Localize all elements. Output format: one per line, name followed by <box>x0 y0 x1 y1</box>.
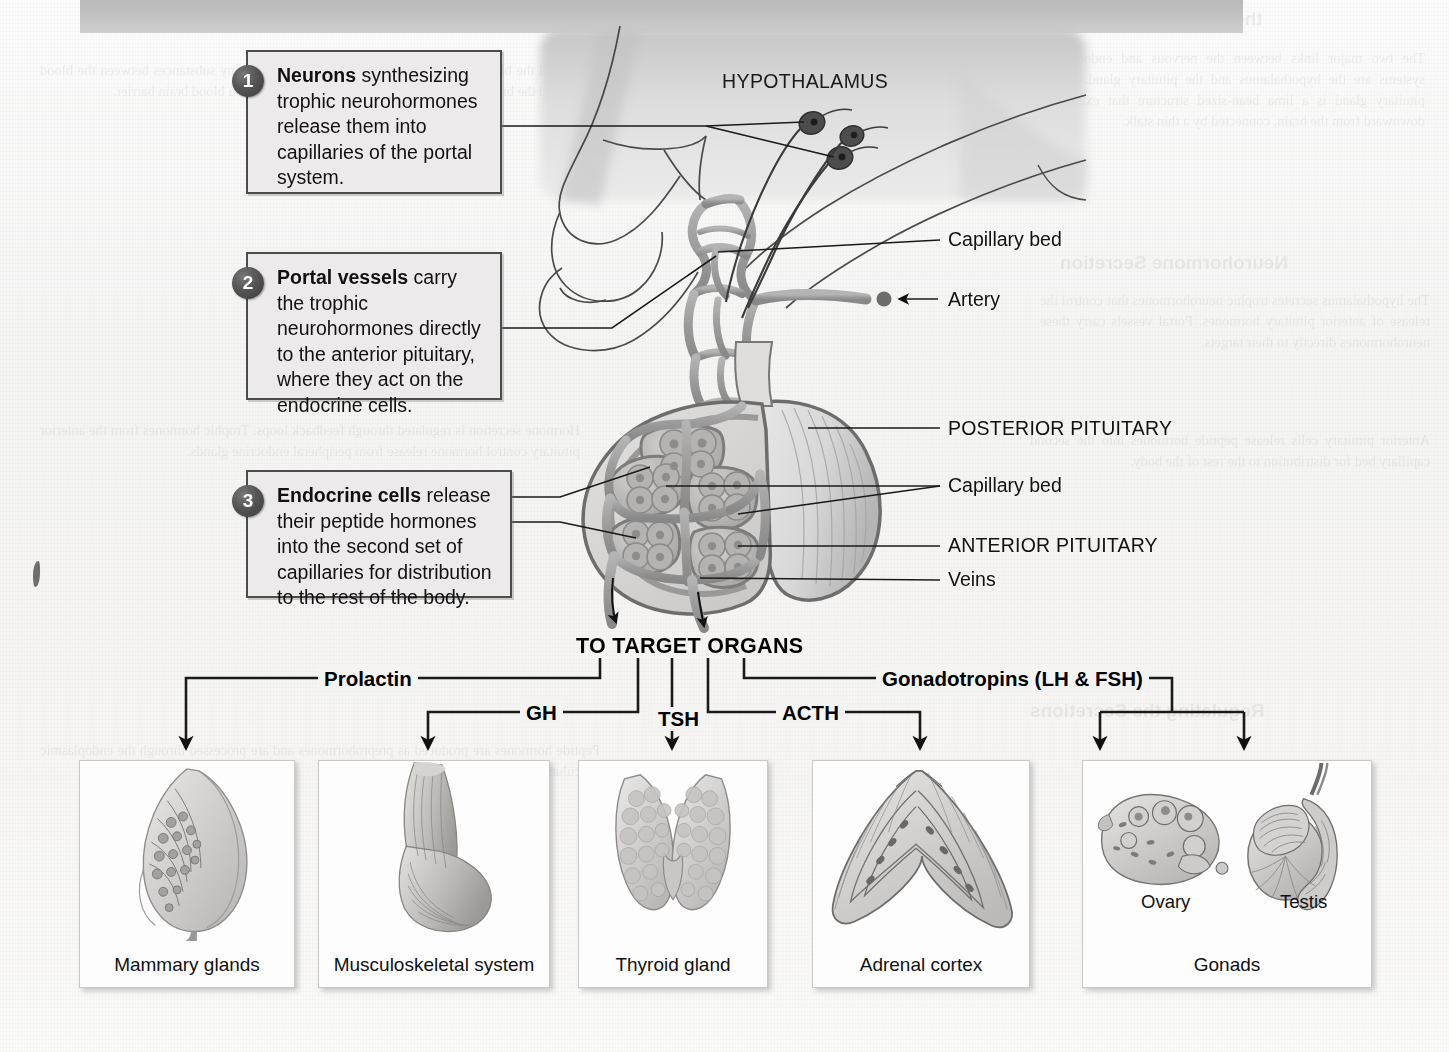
ovary-illustration <box>1098 795 1228 885</box>
organ-box-mammary-glands[interactable]: Mammary glands <box>79 760 295 988</box>
organ-caption-thyroid-gland: Thyroid gland <box>579 954 767 976</box>
label-posterior-pituitary: POSTERIOR PITUITARY <box>948 417 1172 440</box>
callout-3-lead: Endocrine cells <box>277 484 421 506</box>
organ-caption-adrenal-cortex: Adrenal cortex <box>813 954 1029 976</box>
gonads-sub-caption-testis: Testis <box>1280 891 1327 913</box>
label-hormone-tsh: TSH <box>652 707 705 731</box>
callout-2[interactable]: 2 Portal vessels carry the trophic neuro… <box>246 252 502 400</box>
label-hypothalamus: HYPOTHALAMUS <box>722 70 888 93</box>
testis-illustration <box>1248 763 1337 910</box>
mammary-gland-illustration <box>80 761 294 941</box>
artery-vessel <box>756 295 866 300</box>
figure-canvas: the Nervous System Neurohormone Secretio… <box>0 0 1449 1052</box>
posterior-pituitary <box>762 401 880 600</box>
callout-3-badge: 3 <box>232 485 264 517</box>
label-hormone-gh: GH <box>520 701 563 725</box>
label-anterior-pituitary: ANTERIOR PITUITARY <box>948 534 1158 557</box>
callout-2-text: Portal vessels carry the trophic neuroho… <box>248 254 500 429</box>
thyroid-gland-illustration <box>579 761 767 941</box>
gonads-sub-caption-ovary: Ovary <box>1141 891 1190 913</box>
arm-muscle-illustration <box>319 761 549 941</box>
label-to-target-organs: TO TARGET ORGANS <box>576 634 803 659</box>
adrenal-cortex-illustration <box>813 761 1029 941</box>
organ-box-thyroid-gland[interactable]: Thyroid gland <box>578 760 768 988</box>
organ-caption-gonads: Gonads <box>1083 954 1371 976</box>
label-capillary-bed-lower: Capillary bed <box>948 474 1062 497</box>
pituitary-stalk <box>735 342 772 406</box>
organ-box-musculoskeletal-system[interactable]: Musculoskeletal system <box>318 760 550 988</box>
label-capillary-bed-upper: Capillary bed <box>948 228 1062 251</box>
callout-1[interactable]: 1 Neurons synthesizing trophic neurohorm… <box>246 50 502 194</box>
organ-caption-musculoskeletal-system: Musculoskeletal system <box>319 954 549 976</box>
label-hormone-acth: ACTH <box>776 701 845 725</box>
organ-box-gonads[interactable]: Ovary Testis Gonads <box>1082 760 1372 988</box>
callout-1-lead: Neurons <box>277 64 356 86</box>
label-veins: Veins <box>948 568 996 591</box>
organ-caption-mammary-glands: Mammary glands <box>80 954 294 976</box>
gonads-illustration <box>1083 761 1371 942</box>
organ-box-adrenal-cortex[interactable]: Adrenal cortex <box>812 760 1030 988</box>
callout-3-text: Endocrine cells release their peptide ho… <box>248 472 510 622</box>
callout-2-badge: 2 <box>232 267 264 299</box>
artery-terminus <box>877 292 892 307</box>
callout-1-text: Neurons synthesizing trophic neurohormon… <box>248 52 500 202</box>
callout-3[interactable]: 3 Endocrine cells release their peptide … <box>246 470 512 598</box>
label-hormone-prolactin: Prolactin <box>318 667 418 691</box>
callout-2-lead: Portal vessels <box>277 266 408 288</box>
label-hormone-gonadotropins: Gonadotropins (LH & FSH) <box>876 667 1149 691</box>
callout-2-rest: carry the trophic neurohormones directly… <box>277 266 481 416</box>
callout-1-badge: 1 <box>232 65 264 97</box>
label-artery: Artery <box>948 288 1000 311</box>
optic-chiasm <box>540 268 698 350</box>
